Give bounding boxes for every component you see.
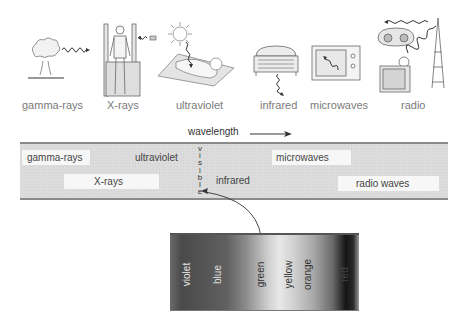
band-label-microwaves: microwaves: [272, 150, 351, 165]
spectrum-text: yellow: [284, 260, 295, 288]
label-x-rays: X-rays: [107, 99, 139, 111]
spectrum-label-red: red: [337, 235, 351, 313]
label-microwaves: microwaves: [310, 99, 368, 111]
xray-scanner-icon: [100, 22, 160, 98]
sun-sunbather-icon: [156, 20, 236, 88]
spectrum-text: blue: [212, 265, 223, 284]
spectrum-text: violet: [182, 262, 193, 285]
band-label-radio-waves: radio waves: [338, 176, 439, 191]
spectrum-label-violet: violet: [180, 235, 194, 313]
label-gamma-rays: gamma-rays: [22, 99, 83, 111]
spectrum-text: red: [339, 267, 350, 281]
band-label-gamma-rays: gamma-rays: [22, 150, 90, 165]
spectrum-label-orange: orange: [301, 235, 315, 313]
arrow-right-icon: [250, 130, 292, 138]
radio-tv-tower-icon: [376, 12, 456, 94]
band-label-ultraviolet: ultraviolet: [130, 150, 183, 165]
label-infrared: infrared: [260, 99, 297, 111]
spectrum-label-blue: blue: [210, 235, 224, 313]
spectrum-text: orange: [303, 258, 314, 289]
label-radio: radio: [401, 99, 425, 111]
band-label-x-rays: X-rays: [64, 174, 159, 189]
mushroom-cloud-icon: [26, 34, 102, 86]
visible-spectrum-box: violet blue green yellow orange red: [170, 233, 359, 311]
pointer-arrow-icon: [195, 180, 275, 238]
microwave-oven-icon: [310, 44, 362, 84]
heater-icon: [252, 42, 302, 98]
spectrum-label-green: green: [254, 235, 268, 313]
wavelength-text: wavelength: [188, 126, 239, 137]
label-ultraviolet: ultraviolet: [176, 99, 223, 111]
wavelength-axis-label: wavelength: [188, 126, 239, 137]
spectrum-text: green: [256, 261, 267, 287]
spectrum-label-yellow: yellow: [282, 235, 296, 313]
